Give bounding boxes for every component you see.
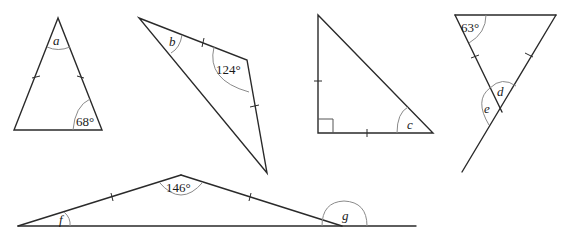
angle-68-label: 68° (76, 114, 94, 129)
angle-c-label: c (407, 117, 413, 132)
equal-side-tick (32, 76, 40, 78)
angle-f-label: f (59, 212, 65, 227)
triangle-de: 63° d e (455, 15, 556, 172)
triangle-a: a 68° (14, 18, 102, 130)
angle-g-label: g (342, 208, 349, 223)
left-side (18, 175, 181, 226)
right-side (181, 175, 342, 226)
angle-e-label: e (484, 101, 490, 116)
triangle-c: c (314, 15, 433, 137)
right-angle-marker (318, 119, 333, 133)
angle-a-label: a (53, 33, 60, 48)
angle-b-label: b (169, 34, 176, 49)
triangle-b: b 124° (139, 18, 267, 173)
triangle-fg: 146° f g (18, 175, 416, 227)
geometry-diagram: a 68° b 124° c 63° d e (0, 0, 568, 237)
triangle-c-outline (318, 15, 433, 133)
angle-f-arc (64, 212, 70, 226)
right-side-extended (462, 15, 556, 172)
angle-d-label: d (497, 84, 504, 99)
angle-146-label: 146° (166, 180, 191, 195)
angle-124-label: 124° (216, 62, 241, 77)
angle-63-label: 63° (461, 20, 479, 35)
